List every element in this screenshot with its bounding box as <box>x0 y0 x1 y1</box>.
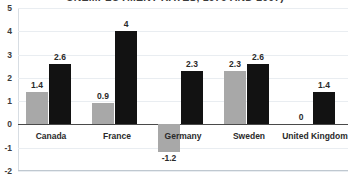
y-axis-tick-label: 1 <box>0 97 12 105</box>
bar[interactable] <box>26 92 48 125</box>
plot-area: 543210-1-21.42.6Canada0.94France-1.22.3G… <box>18 8 348 171</box>
gridline <box>18 171 348 172</box>
bar-group: 2.32.6Sweden <box>216 8 282 171</box>
bar[interactable] <box>224 71 246 125</box>
bar[interactable] <box>115 31 137 124</box>
bar-value-label: 1.4 <box>307 81 341 90</box>
bar-value-label: -1.2 <box>152 154 186 163</box>
x-axis-category-label: France <box>84 131 150 141</box>
bar[interactable] <box>181 71 203 125</box>
y-axis-tick-label: 0 <box>0 120 12 128</box>
bar[interactable] <box>92 103 114 124</box>
bar-group: 0.94France <box>84 8 150 171</box>
y-axis-tick-label: -2 <box>0 167 12 175</box>
y-axis-tick-label: 5 <box>0 4 12 12</box>
bar-value-label: 2.6 <box>43 53 77 62</box>
bar-group: 1.42.6Canada <box>18 8 84 171</box>
bar-value-label: 2.6 <box>241 53 275 62</box>
bar[interactable] <box>313 92 335 125</box>
plot-frame: 543210-1-21.42.6Canada0.94France-1.22.3G… <box>18 8 348 171</box>
y-axis-tick-label: 3 <box>0 51 12 59</box>
bar[interactable] <box>247 64 269 125</box>
bar[interactable] <box>49 64 71 125</box>
bar-value-label: 2.3 <box>175 60 209 69</box>
chart-title: UNEMPLOYMENT RATES, 1979 AND 2007) <box>0 0 350 3</box>
bar-group: 01.4United Kingdom <box>282 8 348 171</box>
chart-screenshot: UNEMPLOYMENT RATES, 1979 AND 2007) 54321… <box>0 0 350 177</box>
bar-group: -1.22.3Germany <box>150 8 216 171</box>
y-axis-tick-label: 4 <box>0 27 12 35</box>
x-axis-category-label: Canada <box>18 131 84 141</box>
x-axis-category-label: Sweden <box>216 131 282 141</box>
x-axis-category-label: Germany <box>150 131 216 141</box>
y-axis-tick-label: -1 <box>0 144 12 152</box>
x-axis-category-label: United Kingdom <box>282 131 348 141</box>
y-axis-tick-label: 2 <box>0 74 12 82</box>
bar-value-label: 4 <box>109 20 143 29</box>
